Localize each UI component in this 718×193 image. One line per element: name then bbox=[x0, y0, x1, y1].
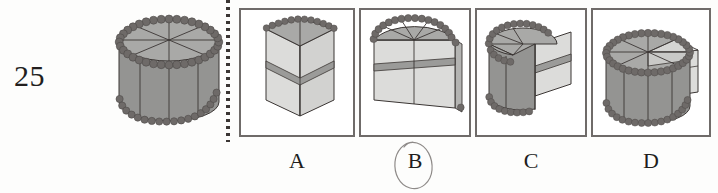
option-label-a[interactable]: A bbox=[277, 148, 317, 174]
option-label-b[interactable]: B bbox=[395, 148, 435, 174]
prompt-figure-cylinder bbox=[112, 6, 227, 136]
option-label-d[interactable]: D bbox=[631, 148, 671, 174]
option-b-figure bbox=[367, 14, 467, 126]
option-label-c[interactable]: C bbox=[511, 148, 551, 174]
worksheet-page: 25 bbox=[0, 0, 718, 193]
option-a-figure bbox=[255, 14, 345, 124]
option-c-figure bbox=[483, 14, 583, 130]
option-d-figure bbox=[597, 14, 707, 132]
question-number: 25 bbox=[14, 59, 45, 93]
